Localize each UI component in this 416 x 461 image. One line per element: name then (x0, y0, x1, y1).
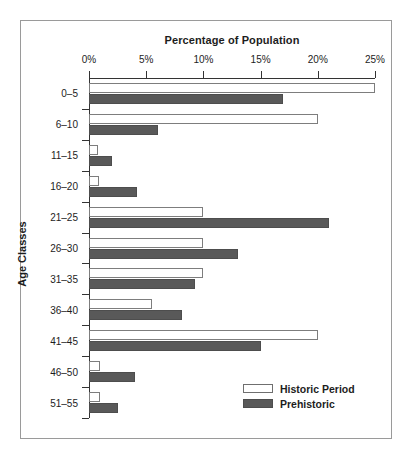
bar-prehistoric (89, 218, 329, 228)
bar-historic (89, 176, 99, 186)
y-category-label: 0–5 (16, 88, 78, 99)
legend-label-historic: Historic Period (280, 383, 355, 395)
x-tick-mark (375, 71, 376, 78)
y-tick-mark (82, 387, 89, 388)
bar-historic (89, 330, 318, 340)
y-category-label: 51–55 (16, 397, 78, 408)
chart-title: Percentage of Population (89, 34, 375, 46)
bar-historic (89, 114, 318, 124)
chart-figure: Percentage of Population 0%5%10%15%20%25… (0, 0, 416, 461)
y-tick-mark (82, 325, 89, 326)
x-tick-label: 5% (139, 54, 153, 65)
legend-item-historic: Historic Period (243, 381, 375, 396)
bar-prehistoric (89, 94, 283, 104)
bar-historic (89, 392, 100, 402)
legend-item-prehistoric: Prehistoric (243, 396, 375, 411)
bar-historic (89, 299, 152, 309)
y-tick-mark (82, 233, 89, 234)
bar-prehistoric (89, 279, 195, 289)
y-category-label: 46–50 (16, 366, 78, 377)
bar-historic (89, 207, 203, 217)
x-tick-label: 10% (193, 54, 213, 65)
y-tick-mark (82, 263, 89, 264)
x-tick-mark (146, 71, 147, 78)
bar-historic (89, 361, 100, 371)
bar-prehistoric (89, 403, 118, 413)
bar-prehistoric (89, 156, 112, 166)
y-tick-mark (82, 109, 89, 110)
bar-prehistoric (89, 341, 261, 351)
x-tick-label: 0% (82, 54, 96, 65)
x-axis-tick-labels: 0%5%10%15%20%25% (89, 54, 375, 68)
legend-swatch-prehistoric-icon (243, 399, 273, 408)
y-tick-mark (82, 356, 89, 357)
bar-prehistoric (89, 187, 137, 197)
y-tick-mark (82, 294, 89, 295)
bar-prehistoric (89, 372, 135, 382)
x-tick-mark (203, 71, 204, 78)
y-tick-mark (82, 140, 89, 141)
y-tick-mark (82, 202, 89, 203)
x-tick-label: 25% (365, 54, 385, 65)
y-category-label: 36–40 (16, 304, 78, 315)
y-category-label: 16–20 (16, 181, 78, 192)
y-category-label: 11–15 (16, 150, 78, 161)
x-tick-mark (89, 71, 90, 78)
bar-prehistoric (89, 310, 182, 320)
y-axis-title: Age Classes (16, 221, 28, 286)
legend-label-prehistoric: Prehistoric (280, 398, 335, 410)
bar-historic (89, 268, 203, 278)
bar-prehistoric (89, 249, 238, 259)
x-axis-line (89, 78, 375, 79)
bar-prehistoric (89, 125, 158, 135)
y-category-label: 41–45 (16, 335, 78, 346)
chart-legend: Historic Period Prehistoric (243, 381, 375, 419)
bar-historic (89, 145, 98, 155)
x-tick-mark (318, 71, 319, 78)
bar-historic (89, 238, 203, 248)
y-tick-mark (82, 418, 89, 419)
bar-historic (89, 83, 375, 93)
x-tick-label: 15% (251, 54, 271, 65)
y-category-label: 6–10 (16, 119, 78, 130)
x-tick-mark (261, 71, 262, 78)
y-tick-mark (82, 171, 89, 172)
legend-swatch-historic-icon (243, 384, 273, 393)
x-tick-label: 20% (308, 54, 328, 65)
